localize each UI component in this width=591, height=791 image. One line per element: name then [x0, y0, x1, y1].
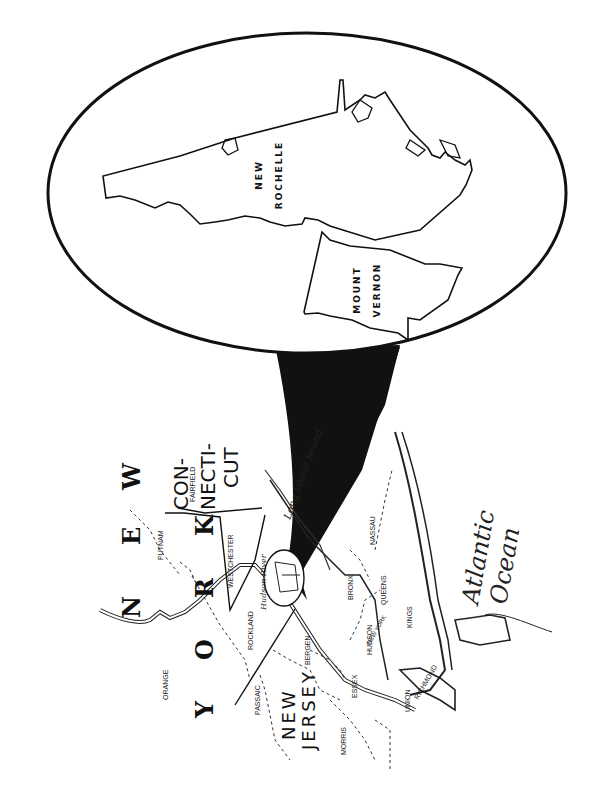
long-island-barrier	[402, 432, 452, 670]
county-label-bergen: BERGEN	[304, 635, 311, 665]
county-label-fairfield: FAIRFIELD	[189, 467, 196, 502]
county-label-passaic: PASSAIC	[254, 685, 261, 715]
county-label-union: UNION	[404, 689, 411, 712]
new-rochelle-label-line2: ROCHELLE	[274, 141, 284, 209]
county-boundaries	[130, 470, 392, 770]
connecticut-label-2: NECTI-	[196, 443, 220, 510]
york-label-r: R	[190, 577, 219, 598]
new-york-label-e: E	[117, 527, 146, 545]
york-label-k: K	[190, 514, 219, 536]
county-label-kings: KINGS	[406, 606, 413, 628]
county-label-nassau: NASSAU	[369, 516, 376, 545]
sandy-hook	[455, 615, 510, 645]
long-island-coast	[395, 432, 445, 695]
county-label-rockland: ROCKLAND	[247, 611, 254, 650]
mount-vernon-label-line1: MOUNT	[352, 266, 362, 314]
locator-circle	[264, 550, 304, 606]
new-jersey-label-2: JERSEY	[298, 669, 319, 751]
regional-map: NEW ROCHELLE MOUNT VERNON N E W Y	[0, 0, 591, 791]
new-york-label-n: N	[117, 596, 146, 618]
new-york-label-w: W	[117, 462, 146, 491]
connecticut-label-3: CUT	[219, 446, 243, 488]
county-label-putnam: PUTNAM	[157, 530, 164, 560]
hudson-river-label: Hudson River	[259, 553, 268, 611]
york-label-o: O	[190, 639, 219, 660]
county-label-richmond: RICHMOND	[413, 664, 438, 701]
county-label-orange: ORANGE	[162, 669, 169, 700]
york-label-y: Y	[190, 700, 219, 719]
mount-vernon-label-line2: VERNON	[372, 263, 382, 318]
county-label-westchester: WESTCHESTER	[227, 534, 234, 588]
county-label-morris: MORRIS	[340, 727, 347, 755]
new-rochelle-label-line1: NEW	[254, 160, 264, 190]
inset-oval	[48, 33, 566, 353]
county-label-bronx: BRONX	[347, 575, 354, 600]
county-label-queens: QUEENS	[380, 575, 388, 605]
county-label-essex: ESSEX	[351, 674, 358, 698]
new-jersey-label-1: NEW	[278, 688, 299, 740]
